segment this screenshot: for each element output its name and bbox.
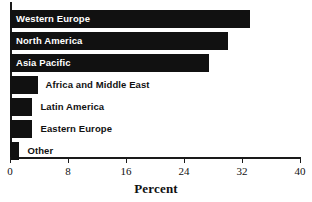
x-axis-tick [10, 157, 11, 163]
x-axis-tick-label: 0 [7, 165, 13, 177]
bar-category-label: Africa and Middle East [46, 76, 150, 94]
bar-row: Latin America [10, 98, 32, 116]
x-axis-tick-label: 40 [295, 165, 306, 177]
bar-row: Asia Pacific [10, 54, 209, 72]
x-axis-tick [300, 157, 301, 163]
bar-row: Africa and Middle East [10, 76, 38, 94]
bar-chart: Western EuropeNorth AmericaAsia PacificA… [0, 0, 312, 202]
bar-row: North America [10, 32, 228, 50]
x-axis-tick [242, 157, 243, 163]
x-axis-tick [126, 157, 127, 163]
plot-area: Western EuropeNorth AmericaAsia PacificA… [0, 0, 312, 160]
bar-category-label: Other [27, 142, 53, 160]
x-axis-title: Percent [0, 181, 312, 197]
x-axis-tick-label: 8 [65, 165, 71, 177]
bar-row: Western Europe [10, 10, 250, 28]
bar-row: Eastern Europe [10, 120, 32, 138]
x-axis-tick [68, 157, 69, 163]
bar-category-label: Latin America [40, 98, 104, 116]
bar-category-label: North America [16, 32, 82, 50]
bar [10, 76, 38, 94]
x-axis-tick [184, 157, 185, 163]
bar-row: Other [10, 142, 19, 160]
bar-category-label: Asia Pacific [16, 54, 71, 72]
x-axis-tick-label: 32 [237, 165, 248, 177]
x-axis-tick-label: 24 [179, 165, 190, 177]
bar [10, 98, 32, 116]
bar [10, 120, 32, 138]
x-axis-line [10, 157, 300, 159]
x-axis-tick-label: 16 [121, 165, 132, 177]
bar-category-label: Western Europe [16, 10, 90, 28]
bar [10, 142, 19, 160]
bar-category-label: Eastern Europe [40, 120, 112, 138]
